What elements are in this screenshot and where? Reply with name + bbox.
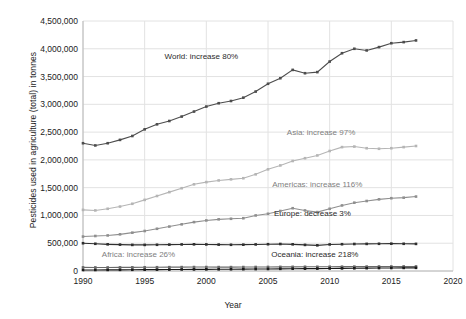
chart-container: Pesticides used in agriculture (total) i… [0, 0, 466, 319]
data-point-marker [131, 135, 134, 138]
data-point-marker [119, 205, 122, 208]
data-point-marker [168, 268, 171, 271]
data-point-marker [365, 200, 368, 203]
data-point-marker [402, 267, 405, 270]
data-point-marker [106, 207, 109, 210]
data-point-marker [316, 244, 319, 247]
data-point-marker [365, 267, 368, 270]
data-point-marker [94, 266, 97, 269]
data-point-marker [378, 267, 381, 270]
data-point-marker [205, 268, 208, 271]
data-point-marker [390, 267, 393, 270]
data-point-marker [415, 243, 418, 246]
data-point-marker [242, 243, 245, 246]
data-point-marker [254, 173, 257, 176]
data-point-marker [230, 100, 233, 103]
data-point-marker [341, 243, 344, 246]
data-point-marker [94, 209, 97, 212]
data-point-marker [217, 268, 220, 271]
data-point-marker [341, 267, 344, 270]
data-point-marker [230, 178, 233, 181]
data-point-marker [106, 234, 109, 237]
data-point-marker [341, 52, 344, 55]
plot-area [0, 0, 466, 319]
data-point-marker [106, 266, 109, 269]
data-point-marker [193, 183, 196, 186]
data-point-marker [205, 219, 208, 222]
data-point-marker [353, 47, 356, 50]
data-point-marker [254, 214, 257, 217]
data-point-marker [193, 221, 196, 224]
data-point-marker [304, 267, 307, 270]
data-point-marker [242, 217, 245, 220]
data-point-marker [119, 266, 122, 269]
data-point-marker [242, 177, 245, 180]
data-point-marker [402, 242, 405, 245]
annotation-asia: Asia: increase 97% [287, 127, 355, 136]
data-point-marker [143, 199, 146, 202]
data-point-marker [267, 243, 270, 246]
data-point-marker [378, 46, 381, 49]
data-point-marker [156, 195, 159, 198]
data-point-marker [254, 243, 257, 246]
data-point-marker [390, 147, 393, 150]
data-point-marker [156, 227, 159, 230]
data-point-marker [180, 268, 183, 271]
data-point-marker [168, 243, 171, 246]
series-europe [82, 242, 418, 247]
data-point-marker [82, 269, 85, 272]
data-point-marker [94, 144, 97, 147]
data-point-marker [205, 181, 208, 184]
data-point-marker [156, 268, 159, 271]
data-point-marker [131, 231, 134, 234]
data-point-marker [82, 142, 85, 145]
data-point-marker [279, 243, 282, 246]
data-point-marker [193, 268, 196, 271]
data-point-marker [131, 266, 134, 269]
data-point-marker [119, 139, 122, 142]
data-point-marker [82, 209, 85, 212]
data-point-marker [168, 120, 171, 123]
data-point-marker [82, 266, 85, 269]
data-point-marker [230, 243, 233, 246]
data-point-marker [291, 243, 294, 246]
data-point-marker [131, 268, 134, 271]
data-point-marker [353, 267, 356, 270]
data-point-marker [402, 196, 405, 199]
data-point-marker [378, 147, 381, 150]
data-point-marker [82, 235, 85, 238]
data-point-marker [328, 267, 331, 270]
annotation-europe: Europe: decrease 3% [274, 208, 351, 217]
data-point-marker [193, 243, 196, 246]
data-point-marker [193, 266, 196, 269]
data-point-marker [316, 154, 319, 157]
data-point-marker [205, 266, 208, 269]
data-point-marker [291, 69, 294, 72]
data-point-marker [106, 142, 109, 145]
data-point-marker [304, 72, 307, 75]
annotation-world: World: increase 80% [165, 52, 239, 61]
data-point-marker [82, 242, 85, 245]
series-world [82, 39, 418, 147]
series-americas [82, 195, 418, 238]
data-point-marker [279, 77, 282, 80]
data-point-marker [390, 197, 393, 200]
data-point-marker [156, 243, 159, 246]
data-point-marker [390, 42, 393, 45]
data-point-marker [180, 266, 183, 269]
data-point-marker [328, 243, 331, 246]
data-point-marker [415, 195, 418, 198]
data-point-marker [254, 268, 257, 271]
data-point-marker [378, 198, 381, 201]
data-point-marker [353, 243, 356, 246]
data-point-marker [267, 82, 270, 85]
data-point-marker [205, 243, 208, 246]
annotation-americas: Americas: increase 116% [272, 180, 362, 189]
data-point-marker [316, 71, 319, 74]
data-point-marker [143, 266, 146, 269]
data-point-marker [143, 268, 146, 271]
data-point-marker [341, 146, 344, 149]
data-point-marker [217, 179, 220, 182]
data-point-marker [242, 268, 245, 271]
chart-svg [0, 0, 466, 319]
